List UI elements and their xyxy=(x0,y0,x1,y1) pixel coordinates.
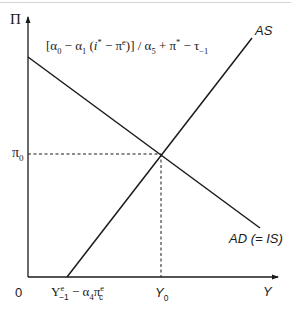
ad-intercept-formula: [α0 − α1 (i* − πe)] / α5 + π* − τ−1 xyxy=(46,39,208,52)
pi0-label: π0 xyxy=(12,146,24,160)
ad-curve xyxy=(28,57,260,228)
as-curve xyxy=(67,38,252,277)
y0-label: Y0 xyxy=(155,286,168,299)
as-x-intercept-label: Ye−1 − α4πec xyxy=(51,285,103,298)
as-curve-label: AS xyxy=(255,24,272,37)
ad-curve-label: AD (= IS) xyxy=(229,232,283,245)
y-axis-label: Π xyxy=(10,12,21,27)
origin-label: 0 xyxy=(15,286,22,299)
x-axis-label: Y xyxy=(263,285,272,298)
